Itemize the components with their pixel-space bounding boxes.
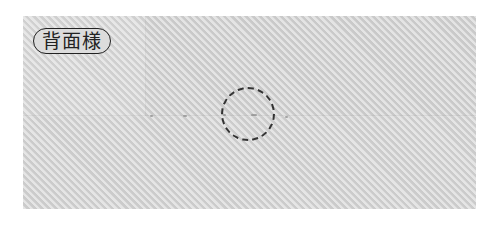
highlight-circle [221,87,275,141]
stitch-mark [150,115,153,117]
stitch-mark [183,115,187,117]
stitch-mark [285,116,288,118]
figure-label: 背面様 [33,28,111,54]
